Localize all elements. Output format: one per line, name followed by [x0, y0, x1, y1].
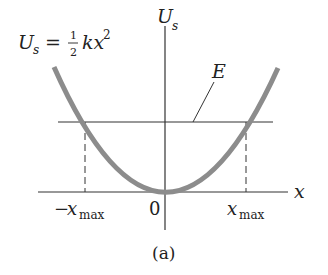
tick-neg-xmax: − x max [54, 198, 105, 222]
potential-energy-diagram: U s = 1 2 kx 2 U s E x − x max 0 x max (… [0, 0, 328, 275]
svg-text:1: 1 [70, 29, 77, 42]
y-axis-label: U s [157, 5, 178, 33]
parabola-curve [54, 67, 278, 192]
svg-text:2: 2 [70, 46, 77, 59]
energy-leader [193, 82, 214, 122]
svg-text:=: = [45, 31, 61, 53]
svg-text:2: 2 [103, 28, 111, 42]
svg-text:s: s [33, 43, 39, 57]
svg-text:max: max [79, 208, 105, 222]
svg-text:s: s [172, 19, 178, 33]
tick-zero: 0 [149, 198, 160, 219]
figure-caption: (a) [152, 243, 175, 263]
tick-pos-xmax: x max [227, 198, 265, 222]
energy-label: E [211, 60, 226, 82]
equation-label: U s = 1 2 kx 2 [18, 28, 111, 59]
svg-text:x: x [227, 198, 237, 219]
svg-text:kx: kx [82, 31, 105, 53]
svg-text:x: x [67, 198, 77, 219]
svg-text:max: max [239, 208, 265, 222]
x-axis-label: x [294, 180, 305, 202]
